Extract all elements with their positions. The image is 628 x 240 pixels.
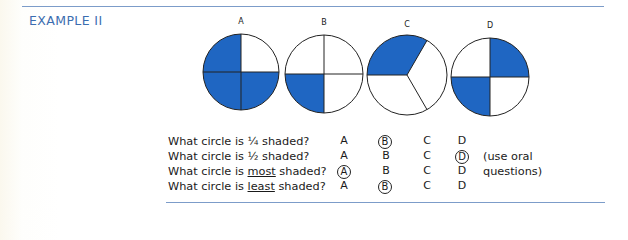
- option-b-circled[interactable]: B: [378, 180, 392, 194]
- option-b[interactable]: B: [379, 149, 393, 163]
- option-c[interactable]: C: [420, 134, 434, 148]
- circle-a: A: [203, 17, 279, 110]
- option-b-circled[interactable]: B: [378, 135, 392, 149]
- question-text: What circle is ½ shaded?: [168, 149, 309, 164]
- option-d[interactable]: D: [455, 179, 469, 193]
- circle-label-d: D: [487, 21, 493, 30]
- option-d[interactable]: D: [455, 134, 469, 148]
- note-line-1: (use oral: [483, 149, 533, 164]
- question-text: What circle is most shaded?: [168, 164, 327, 179]
- question-text: What circle is ¼ shaded?: [168, 134, 309, 149]
- option-d[interactable]: D: [455, 164, 469, 178]
- option-d-circled[interactable]: D: [455, 150, 469, 164]
- option-c[interactable]: C: [420, 149, 434, 163]
- question-row: What circle is ½ shaded? A B C D: [168, 149, 608, 164]
- option-a-circled[interactable]: A: [337, 165, 351, 179]
- option-a[interactable]: A: [337, 149, 351, 163]
- option-a[interactable]: A: [337, 134, 351, 148]
- question-row: What circle is ¼ shaded? A B C D: [168, 134, 608, 149]
- circle-c: C: [367, 20, 447, 115]
- option-a[interactable]: A: [337, 179, 351, 193]
- circle-label-b: B: [321, 18, 327, 27]
- circle-label-a: A: [238, 17, 244, 26]
- circle-d: D: [451, 21, 529, 116]
- fraction-circles: A B C D: [0, 0, 628, 130]
- circle-b: B: [285, 18, 363, 113]
- option-c[interactable]: C: [420, 164, 434, 178]
- note-line-2: questions): [483, 164, 542, 179]
- circle-label-c: C: [404, 20, 410, 29]
- bottom-rule: [166, 202, 605, 203]
- option-b[interactable]: B: [379, 164, 393, 178]
- option-c[interactable]: C: [420, 179, 434, 193]
- question-text: What circle is least shaded?: [168, 179, 326, 194]
- question-row: What circle is least shaded? A B C D: [168, 179, 608, 194]
